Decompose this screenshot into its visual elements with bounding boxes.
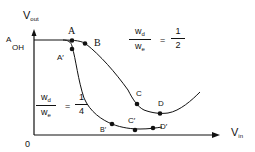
ratio-half-equals: =: [160, 36, 165, 45]
x-axis-arrow-icon: [212, 132, 220, 138]
label-b-prime: B′: [100, 126, 106, 133]
point-b-prime: [110, 122, 115, 127]
label-c-prime: C′: [128, 117, 135, 125]
point-a: [70, 38, 75, 43]
ratio-quarter-rhs: 1 4: [75, 93, 88, 116]
curve-ratio-half: [34, 40, 200, 113]
label-a: A: [68, 26, 75, 36]
ratio-quarter-equals: =: [65, 102, 70, 111]
point-d: [158, 111, 163, 116]
point-c: [135, 102, 140, 107]
y-axis-label: Vout: [23, 10, 39, 22]
label-b: B: [94, 38, 101, 48]
point-b: [83, 41, 88, 46]
label-a-prime: A′: [57, 54, 64, 62]
diagram-canvas: [0, 0, 255, 152]
point-d-prime: [151, 126, 156, 131]
label-c: C: [136, 90, 142, 98]
ratio-quarter-lhs: wd we: [36, 93, 56, 118]
label-d: D: [158, 100, 164, 108]
origin-label: 0: [25, 140, 30, 149]
aoh-sub-label: OH: [12, 44, 24, 52]
point-c-prime: [133, 128, 138, 133]
ratio-half-lhs: wd we: [129, 27, 151, 52]
label-d-prime: D′: [160, 123, 167, 131]
point-a-prime: [70, 47, 75, 52]
x-axis-label: Vin: [231, 127, 243, 139]
ratio-half-rhs: 1 2: [171, 27, 185, 50]
aoh-label: A: [6, 36, 11, 44]
y-axis-arrow-icon: [32, 29, 37, 36]
